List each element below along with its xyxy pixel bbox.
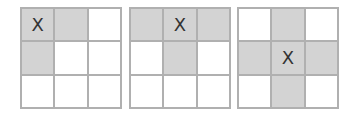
grid-cell xyxy=(197,41,230,74)
grid-cell xyxy=(163,41,196,74)
grid-cell xyxy=(238,8,271,41)
grid-cell xyxy=(238,41,271,74)
grid-cell xyxy=(271,75,304,108)
grid-cell xyxy=(305,8,338,41)
grid-1: X xyxy=(20,7,122,109)
grid-cell xyxy=(163,75,196,108)
grid-cell xyxy=(88,41,121,74)
grid-cell xyxy=(197,8,230,41)
grid-cell: X xyxy=(271,41,304,74)
grid-cell xyxy=(21,41,54,74)
grid-cell xyxy=(54,8,87,41)
grid-cell xyxy=(88,75,121,108)
grid-cell xyxy=(130,75,163,108)
grid-cell xyxy=(54,75,87,108)
grid-2: X xyxy=(129,7,231,109)
grid-cell xyxy=(238,75,271,108)
grid-cell xyxy=(130,41,163,74)
grid-cell: X xyxy=(21,8,54,41)
grid-cell xyxy=(305,41,338,74)
grid-cell xyxy=(271,8,304,41)
grid-cell xyxy=(305,75,338,108)
grid-cell xyxy=(21,75,54,108)
grid-cell xyxy=(54,41,87,74)
grid-3: X xyxy=(237,7,339,109)
grid-cell xyxy=(130,8,163,41)
grid-cell xyxy=(88,8,121,41)
grid-cell xyxy=(197,75,230,108)
grid-cell: X xyxy=(163,8,196,41)
